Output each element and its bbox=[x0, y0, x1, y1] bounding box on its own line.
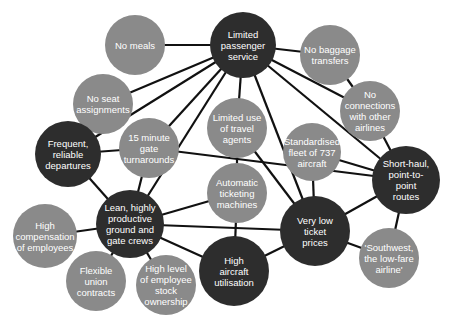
node-label: gate crews bbox=[107, 235, 153, 246]
node-very-low-prices: Very lowticketprices bbox=[280, 196, 350, 266]
node-southwest: 'Southwest,the low-fareairline' bbox=[359, 228, 419, 288]
node-label: ownership bbox=[144, 296, 187, 307]
node-label: agents bbox=[223, 134, 252, 145]
node-frequent-departures: Frequent,reliabledepartures bbox=[35, 121, 101, 187]
node-label: point bbox=[396, 180, 417, 191]
node-limited-travel-agents: Limited useof travelagents bbox=[207, 98, 267, 158]
node-no-baggage-transfers: No baggagetransfers bbox=[300, 25, 360, 85]
node-label: ticket bbox=[304, 226, 327, 237]
node-label: Lean, highly bbox=[104, 202, 155, 213]
node-label: stock bbox=[155, 285, 177, 296]
node-label: No meals bbox=[115, 40, 155, 51]
node-standardised-fleet: Standardisedfleet of 737aircraft bbox=[283, 123, 341, 181]
node-label: High level bbox=[145, 263, 187, 274]
node-label: the low-fare bbox=[364, 253, 414, 264]
node-label: gate bbox=[140, 143, 159, 154]
node-flexible-union: Flexibleunioncontracts bbox=[66, 251, 126, 311]
node-short-haul-routes: Short-haul,point-to-pointroutes bbox=[372, 146, 440, 214]
node-stock-ownership: High levelof employeestockownership bbox=[136, 255, 196, 315]
node-high-compensation: Highcompensationof employees bbox=[13, 204, 77, 268]
node-label: No baggage bbox=[304, 44, 356, 55]
node-label: reliable bbox=[53, 149, 84, 160]
node-label: passenger bbox=[221, 40, 265, 51]
node-label: aircraft bbox=[219, 266, 248, 277]
node-label: Standardised bbox=[284, 136, 340, 147]
node-gate-turnarounds: 15 minutegateturnarounds bbox=[119, 118, 179, 178]
node-label: Flexible bbox=[80, 265, 113, 276]
node-label: Short-haul, bbox=[383, 158, 429, 169]
node-label: No seat bbox=[87, 93, 120, 104]
node-label: ticketing bbox=[220, 188, 255, 199]
node-label: Limited bbox=[228, 29, 259, 40]
node-label: of employee bbox=[140, 274, 192, 285]
node-label: productive bbox=[108, 213, 152, 224]
activity-system-map: LimitedpassengerserviceNo mealsNo baggag… bbox=[0, 0, 453, 327]
nodes-layer: LimitedpassengerserviceNo mealsNo baggag… bbox=[13, 12, 440, 315]
node-label: 'Southwest, bbox=[365, 242, 414, 253]
node-limited-passenger-service: Limitedpassengerservice bbox=[210, 12, 276, 78]
node-label: compensation bbox=[15, 231, 74, 242]
node-label: service bbox=[228, 51, 258, 62]
node-label: of travel bbox=[220, 123, 254, 134]
node-label: ground and bbox=[106, 224, 154, 235]
node-label: routes bbox=[393, 191, 420, 202]
node-label: connections bbox=[345, 100, 396, 111]
node-label: fleet of 737 bbox=[288, 147, 335, 158]
node-label: point-to- bbox=[389, 169, 424, 180]
node-lean-crews: Lean, highlyproductiveground andgate cre… bbox=[96, 190, 164, 258]
node-label: No bbox=[364, 89, 376, 100]
node-label: union bbox=[84, 276, 107, 287]
node-label: aircraft bbox=[297, 158, 326, 169]
node-label: assignments bbox=[76, 104, 130, 115]
node-label: turnarounds bbox=[124, 154, 175, 165]
node-label: departures bbox=[45, 160, 91, 171]
node-automatic-ticketing: Automaticticketingmachines bbox=[207, 163, 267, 223]
edge-gate-turnarounds-to-short-haul-routes bbox=[149, 148, 406, 180]
node-label: airlines bbox=[355, 122, 385, 133]
node-label: Frequent, bbox=[48, 138, 89, 149]
node-label: Very low bbox=[297, 215, 333, 226]
node-label: contracts bbox=[77, 287, 116, 298]
node-label: High bbox=[224, 255, 244, 266]
node-label: High bbox=[35, 220, 55, 231]
node-label: machines bbox=[217, 199, 258, 210]
node-label: Automatic bbox=[216, 177, 258, 188]
node-label: transfers bbox=[312, 55, 349, 66]
node-label: utilisation bbox=[214, 277, 254, 288]
node-label: Limited use bbox=[213, 112, 262, 123]
node-no-connections: Noconnectionswith otherairlines bbox=[340, 81, 400, 141]
node-label: 15 minute bbox=[128, 132, 170, 143]
node-label: with other bbox=[348, 111, 390, 122]
node-label: of employees bbox=[17, 242, 74, 253]
node-label: prices bbox=[302, 237, 328, 248]
node-high-utilisation: Highaircraftutilisation bbox=[199, 236, 269, 306]
node-label: airline' bbox=[375, 264, 402, 275]
node-no-meals: No meals bbox=[105, 15, 165, 75]
